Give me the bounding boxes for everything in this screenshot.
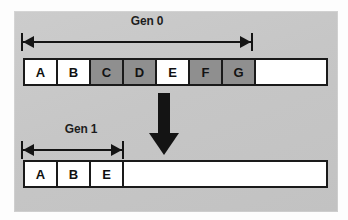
gen1-free-space <box>124 162 326 186</box>
gen0-cell-c: C <box>91 60 124 84</box>
gen0-arrow-left-head <box>23 36 34 48</box>
gen0-memory-bar: A B C D E F G <box>23 58 328 86</box>
gen1-arrow-shaft <box>23 149 122 151</box>
gen1-arrow-right-tick <box>122 141 124 159</box>
collection-down-arrow <box>144 93 184 155</box>
down-arrow-stem <box>158 93 170 137</box>
gen1-arrow-right-head <box>111 144 122 156</box>
gen1-memory-bar: A B E <box>23 160 328 188</box>
gen1-extent-arrow <box>21 141 124 159</box>
gen1-arrow-left-head <box>23 144 34 156</box>
gen1-cell-e: E <box>91 162 124 186</box>
down-arrow-head <box>149 133 179 155</box>
gen0-arrow-right-head <box>240 36 251 48</box>
gen0-cell-f: F <box>190 60 223 84</box>
gen0-cell-g: G <box>223 60 256 84</box>
gen0-cell-b: B <box>58 60 91 84</box>
gen0-label: Gen 0 <box>115 14 179 27</box>
gen1-cell-a: A <box>25 162 58 186</box>
diagram-figure: Gen 0 A B C D E F G Gen 1 <box>0 0 348 220</box>
gen0-free-space <box>256 60 326 84</box>
gen1-label: Gen 1 <box>49 122 113 135</box>
diagram-panel: Gen 0 A B C D E F G Gen 1 <box>14 11 338 212</box>
gen0-cell-a: A <box>25 60 58 84</box>
gen0-arrow-shaft <box>23 41 251 43</box>
gen1-cell-b: B <box>58 162 91 186</box>
gen0-arrow-right-tick <box>251 33 253 51</box>
gen0-cell-e: E <box>157 60 190 84</box>
gen0-cell-d: D <box>124 60 157 84</box>
gen0-extent-arrow <box>21 33 253 51</box>
